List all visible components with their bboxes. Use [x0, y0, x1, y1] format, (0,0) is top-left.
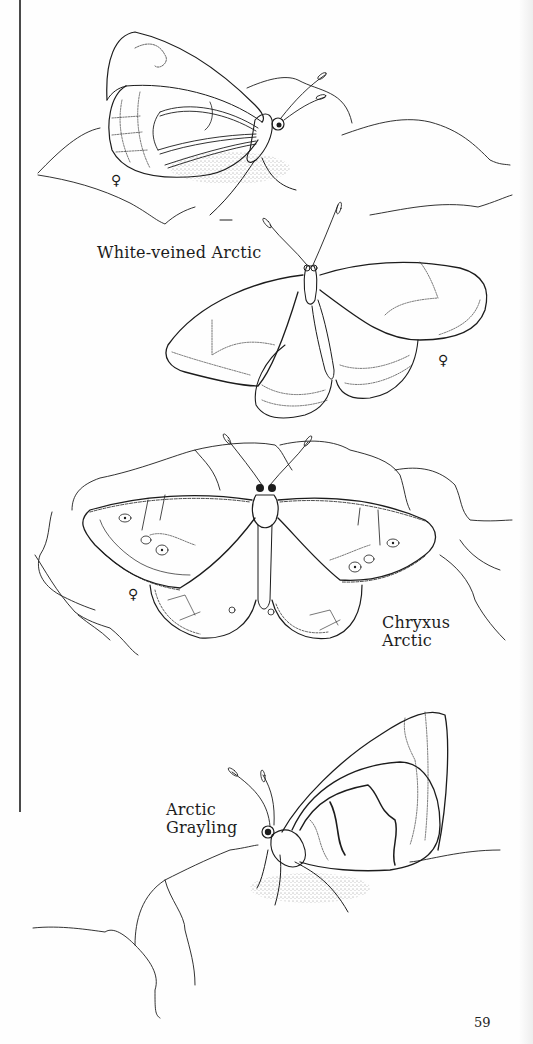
- book-page: White-veined Arctic Chryxus Arctic Arcti…: [0, 0, 533, 1044]
- page-number: 59: [474, 1015, 491, 1030]
- white-veined-arctic-open-illustration: [166, 202, 487, 418]
- caption-arctic-grayling-line2: Grayling: [166, 818, 237, 837]
- female-symbol-icon: ♀: [438, 353, 448, 367]
- arctic-grayling-illustration: [33, 712, 500, 1018]
- female-symbol-icon: ♀: [111, 173, 121, 187]
- caption-arctic-grayling-line1: Arctic: [166, 800, 216, 819]
- caption-chryxus-arctic-line2: Arctic: [382, 631, 432, 650]
- white-veined-arctic-side-illustration: [38, 32, 512, 224]
- caption-chryxus-arctic-line1: Chryxus: [382, 613, 450, 632]
- caption-white-veined-arctic: White-veined Arctic: [97, 243, 261, 262]
- butterfly-illustrations: [0, 0, 533, 1044]
- female-symbol-icon: ♀: [128, 587, 138, 601]
